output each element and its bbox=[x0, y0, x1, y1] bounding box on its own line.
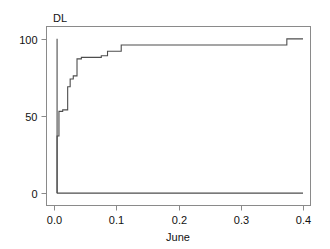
y-axis-tick-labels: 050100 bbox=[19, 34, 37, 200]
x-axis-tick-labels: 0.00.10.20.30.4 bbox=[47, 214, 311, 226]
x-tick-label: 0.2 bbox=[172, 214, 187, 226]
x-tick-label: 0.4 bbox=[296, 214, 311, 226]
y-tick-label: 100 bbox=[19, 34, 37, 46]
chart-svg: 050100 0.00.10.20.30.4 DL June bbox=[0, 0, 330, 249]
x-tick-label: 0.1 bbox=[109, 214, 124, 226]
x-axis-title: June bbox=[166, 231, 190, 243]
chart-figure: 050100 0.00.10.20.30.4 DL June bbox=[0, 0, 330, 249]
x-tick-label: 0.0 bbox=[47, 214, 62, 226]
y-tick-label: 0 bbox=[31, 188, 37, 200]
plot-frame bbox=[47, 27, 311, 206]
y-axis-ticks bbox=[42, 40, 47, 194]
panel-label: DL bbox=[53, 12, 67, 24]
data-series-layer bbox=[57, 39, 303, 193]
series-cumulative-step-curve bbox=[57, 39, 303, 193]
x-tick-label: 0.3 bbox=[234, 214, 249, 226]
x-axis-ticks bbox=[55, 206, 304, 211]
y-tick-label: 50 bbox=[25, 111, 37, 123]
